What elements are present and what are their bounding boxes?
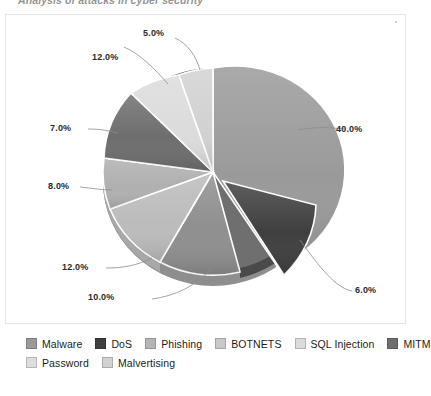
leader-5 xyxy=(175,38,200,70)
legend-label-malware: Malware xyxy=(42,338,82,350)
legend-row-1: Malware DoS Phishing BOTNETS SQL Injecti… xyxy=(26,334,402,353)
legend-swatch-mitm xyxy=(387,338,398,349)
legend-swatch-malvertising xyxy=(102,357,113,368)
pct-label-phishing: 10.0% xyxy=(88,292,115,302)
legend-label-dos: DoS xyxy=(111,338,132,350)
pct-label-malvertising: 5.0% xyxy=(143,28,164,38)
legend-item-dos[interactable]: DoS xyxy=(95,338,132,350)
pct-label-malware: 40.0% xyxy=(336,124,363,134)
legend-label-malvertising: Malvertising xyxy=(118,357,175,369)
chart-legend: Malware DoS Phishing BOTNETS SQL Injecti… xyxy=(26,334,402,372)
legend-item-phishing[interactable]: Phishing xyxy=(145,338,202,350)
legend-item-malware[interactable]: Malware xyxy=(26,338,82,350)
legend-swatch-dos xyxy=(95,338,106,349)
legend-label-mitm: MITM xyxy=(403,338,430,350)
legend-label-phishing: Phishing xyxy=(161,338,202,350)
pie-svg xyxy=(0,0,411,330)
legend-row-2: Password Malvertising xyxy=(26,353,402,372)
legend-swatch-password xyxy=(26,357,37,368)
pct-label-sql-injection: 8.0% xyxy=(48,181,69,191)
pct-label-password: 12.0% xyxy=(92,52,119,62)
legend-item-password[interactable]: Password xyxy=(26,357,89,369)
legend-swatch-botnets xyxy=(215,338,226,349)
legend-label-botnets: BOTNETS xyxy=(231,338,281,350)
legend-item-sql-injection[interactable]: SQL Injection xyxy=(295,338,375,350)
pct-label-botnets: 12.0% xyxy=(62,262,89,272)
legend-item-mitm[interactable]: MITM xyxy=(387,338,430,350)
legend-label-sql-injection: SQL Injection xyxy=(311,338,375,350)
legend-swatch-sql-injection xyxy=(295,338,306,349)
legend-item-botnets[interactable]: BOTNETS xyxy=(215,338,281,350)
legend-item-malvertising[interactable]: Malvertising xyxy=(102,357,175,369)
pct-label-dos: 6.0% xyxy=(355,285,376,295)
pct-label-mitm: 7.0% xyxy=(50,123,71,133)
legend-label-password: Password xyxy=(42,357,89,369)
legend-swatch-phishing xyxy=(145,338,156,349)
legend-swatch-malware xyxy=(26,338,37,349)
pie-area: 40.0% 6.0% 10.0% 12.0% 8.0% 7.0% 12.0% 5… xyxy=(0,0,411,330)
